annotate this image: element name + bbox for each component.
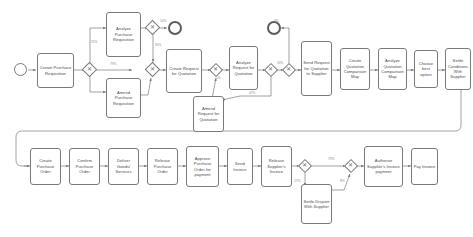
task-label: Release Supplier's Invoice: [263, 158, 290, 174]
task-settle-conditions-with-supplier[interactable]: Settle Conditions With Supplier: [445, 48, 471, 90]
task-label: Pay Invoice: [414, 164, 436, 169]
task-send-invoice[interactable]: Send Invoice: [227, 148, 253, 185]
flow-label-rfq-send: 53%: [277, 62, 283, 65]
task-label: Settle Conditions With Supplier: [447, 58, 469, 80]
task-create-quotation-comparison-map[interactable]: Create Quotation Comparison Map: [340, 48, 370, 90]
gateway-exclusive-mark: ✕: [300, 162, 309, 168]
task-approve-purchase-order-for-payment[interactable]: Approve Purchase Order for payment: [186, 146, 219, 187]
task-label: Analyze Purchase Requisition: [108, 26, 139, 42]
flow-label-rfq-split: 5%: [216, 77, 221, 80]
connector-layer: [0, 0, 473, 237]
task-label: Send Request for Quotation to Supplier: [303, 60, 330, 76]
task-create-purchase-order[interactable]: Create Purchase Order: [30, 148, 61, 185]
task-label: Amend Purchase Requisition: [108, 90, 139, 106]
gateway-exclusive-mark: ✕: [284, 66, 293, 72]
task-confirm-purchase-order[interactable]: Confirm Purchase Order: [69, 148, 100, 185]
task-analyze-quotation-comparison-map[interactable]: Analyze Quotation Comparison Map: [378, 48, 407, 90]
start-event: [14, 63, 27, 76]
flow-label-back-branch: 90%: [155, 44, 161, 47]
task-label: Deliver Goods/ Services: [110, 158, 137, 174]
task-label: Confirm Purchase Order: [71, 158, 98, 174]
gateway-exclusive-mark: ✕: [148, 24, 157, 30]
flow-label-invoice-dispute: 27%: [294, 180, 300, 183]
gateway-exclusive-mark: ✕: [266, 66, 275, 72]
gateway-exclusive-mark: ✕: [346, 162, 355, 168]
task-label: Send Invoice: [229, 161, 251, 172]
task-label: Create Purchase Requisition: [39, 65, 72, 76]
task-label: Create Purchase Order: [32, 158, 59, 174]
task-amend-purchase-requisition[interactable]: Amend Purchase Requisition: [106, 78, 141, 118]
task-choose-best-option[interactable]: Choose best option: [414, 50, 438, 88]
bpmn-diagram-canvas: Create Purchase Requisition Analyze Purc…: [0, 0, 473, 237]
flow-label-direct-branch: 79%: [110, 63, 116, 66]
flow-label-rfq-end: 3%: [274, 20, 279, 23]
task-deliver-goods-services[interactable]: Deliver Goods/ Services: [108, 148, 139, 185]
flow-label-invoice-ok: 73%: [328, 158, 334, 161]
task-label: Approve Purchase Order for payment: [188, 156, 217, 178]
task-analyze-purchase-requisition[interactable]: Analyze Purchase Requisition: [106, 12, 141, 57]
task-label: Analyze Request for Quotation: [231, 60, 256, 76]
flow-label-invoice-rejoin: 8%: [340, 180, 345, 183]
task-authorize-suppliers-invoice-payment[interactable]: Authorize Supplier's Invoice payment: [364, 146, 403, 187]
task-release-suppliers-invoice[interactable]: Release Supplier's Invoice: [261, 146, 292, 187]
task-label: Release Purchase Order: [149, 158, 176, 174]
end-event-top: [168, 21, 182, 35]
task-label: Settle Dispute With Supplier: [303, 199, 330, 210]
task-label: Create Request for Quotation: [168, 66, 200, 77]
task-label: Authorize Supplier's Invoice payment: [366, 158, 401, 174]
task-label: Create Quotation Comparison Map: [342, 58, 368, 80]
gateway-exclusive-mark: ✕: [211, 66, 220, 72]
task-send-request-for-quotation-to-supplier[interactable]: Send Request for Quotation to Supplier: [301, 41, 332, 96]
flow-label-rfq-amend: 47%: [249, 92, 255, 95]
flow-label-end-branch: 10%: [160, 20, 166, 23]
gateway-exclusive-mark: ✕: [148, 66, 157, 72]
task-release-purchase-order[interactable]: Release Purchase Order: [147, 148, 178, 185]
flow-label-analyze-branch: 21%: [91, 41, 97, 44]
gateway-exclusive-mark: ✕: [85, 66, 94, 72]
task-create-purchase-requisition[interactable]: Create Purchase Requisition: [37, 53, 74, 88]
task-pay-invoice[interactable]: Pay Invoice: [411, 148, 438, 185]
task-create-request-for-quotation[interactable]: Create Request for Quotation: [166, 49, 202, 93]
task-amend-request-for-quotation[interactable]: Amend Request for Quotation: [193, 96, 224, 132]
task-settle-dispute-with-supplier[interactable]: Settle Dispute With Supplier: [301, 184, 332, 224]
task-analyze-request-for-quotation[interactable]: Analyze Request for Quotation: [229, 46, 258, 90]
task-label: Amend Request for Quotation: [195, 106, 222, 122]
task-label: Choose best option: [416, 61, 436, 77]
task-label: Analyze Quotation Comparison Map: [380, 58, 405, 80]
